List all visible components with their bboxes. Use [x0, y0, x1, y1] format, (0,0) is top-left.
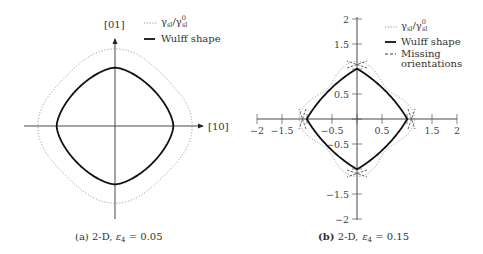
- figure: [10] [01] γsl/γ0sl Wulff shape (a) 2-D, …: [0, 0, 483, 254]
- legend-wulff-label-b: Wulff shape: [401, 36, 461, 47]
- x-tick-label: 2: [454, 125, 460, 136]
- x-tick-label: −2: [250, 125, 264, 136]
- x-axis-label-a: [10]: [208, 121, 229, 132]
- x-tick-label: 1.5: [424, 125, 439, 136]
- y-tick-label: 2: [343, 14, 349, 25]
- y-tick-label: −2: [335, 214, 349, 225]
- caption-b: (b) 2-D,ε4 = 0.15: [318, 231, 409, 244]
- legend-a: γsl/γ0sl Wulff shape: [144, 14, 221, 44]
- y-axis-label-a: [01]: [104, 19, 125, 30]
- caption-a: (a) 2-D, ε4 = 0.05: [75, 231, 163, 244]
- x-tick-label: 0.5: [374, 125, 389, 136]
- x-tick-label: −1.5: [270, 125, 293, 136]
- y-tick-label: 0.5: [334, 89, 349, 100]
- panel-b: −2−1.5−0.50.51.5221.50.5−0.5−1.5−2 γsl/γ…: [250, 14, 462, 245]
- y-tick-label: −1.5: [326, 189, 349, 200]
- y-tick-label: 1.5: [334, 39, 349, 50]
- x-tick-label: −0.5: [320, 125, 343, 136]
- legend-gamma-label-b: γsl/γ0sl: [401, 18, 427, 33]
- legend-b: γsl/γ0sl Wulff shape Missing orientation…: [385, 18, 462, 69]
- legend-missing-label-2: orientations: [401, 58, 462, 69]
- legend-wulff-label: Wulff shape: [161, 33, 221, 44]
- legend-gamma-label: γsl/γ0sl: [161, 14, 187, 29]
- panel-a: [10] [01] γsl/γ0sl Wulff shape (a) 2-D, …: [24, 14, 229, 244]
